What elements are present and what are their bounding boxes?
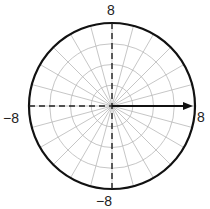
polar-diagram [0, 0, 210, 209]
label-bottom: −8 [96, 194, 112, 208]
label-right: 8 [197, 110, 205, 124]
vector-arrow [112, 102, 193, 110]
label-top: 8 [107, 3, 115, 17]
label-left: −8 [3, 111, 19, 125]
arrowhead-icon [183, 102, 193, 110]
